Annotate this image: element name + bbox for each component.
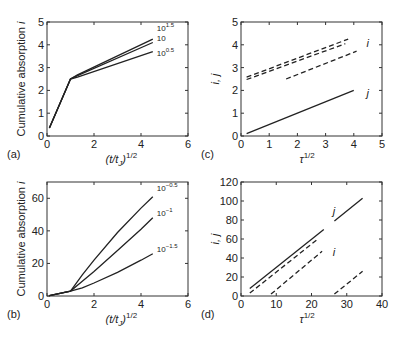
x-tick-label: 0 xyxy=(44,298,50,310)
series-line xyxy=(49,43,152,129)
x-tick-label: 30 xyxy=(341,298,353,310)
y-tick-label: 3 xyxy=(232,62,238,74)
x-tick-label: 20 xyxy=(305,298,317,310)
y-tick-label: 2 xyxy=(232,84,238,96)
series-line xyxy=(49,39,152,128)
series-line xyxy=(49,197,152,296)
x-tick-label: 0 xyxy=(44,138,50,150)
y-tick-label: 60 xyxy=(32,192,44,204)
panel-c: 012345012345(c)τ1/2i, jij xyxy=(201,16,385,165)
y-axis-label: i, j xyxy=(209,73,221,85)
x-tick-label: 10 xyxy=(270,298,282,310)
y-tick-label: 0 xyxy=(38,130,44,142)
figure: 0246012345(a)(t/tJ)1/2Cumulative absorpt… xyxy=(0,0,405,339)
y-axis-label: i, j xyxy=(209,233,221,245)
series-line xyxy=(334,271,362,294)
y-tick-label: 120 xyxy=(220,176,238,188)
x-tick-label: 3 xyxy=(323,138,329,150)
label-j: j xyxy=(364,87,369,99)
panel-tag: (c) xyxy=(201,148,214,160)
x-tick-label: 5 xyxy=(379,138,385,150)
label-i: i xyxy=(366,37,369,49)
x-axis-label: τ1/2 xyxy=(300,311,316,325)
x-tick-label: 0 xyxy=(238,298,244,310)
y-tick-label: 5 xyxy=(232,16,238,28)
y-tick-label: 0 xyxy=(232,130,238,142)
curve-label: 10−1 xyxy=(157,207,173,218)
y-tick-label: 40 xyxy=(32,225,44,237)
label-i: i xyxy=(333,246,336,258)
y-tick-label: 4 xyxy=(232,39,238,51)
y-tick-label: 5 xyxy=(38,16,44,28)
curve-label: 101.5 xyxy=(157,22,175,33)
y-tick-label: 0 xyxy=(232,290,238,302)
y-tick-label: 3 xyxy=(38,62,44,74)
axes-frame xyxy=(47,182,188,296)
x-axis-label: (t/tJ)1/2 xyxy=(106,311,138,328)
x-tick-label: 0 xyxy=(238,138,244,150)
x-tick-label: 2 xyxy=(294,138,300,150)
y-tick-label: 80 xyxy=(226,214,238,226)
x-tick-label: 1 xyxy=(266,138,272,150)
axes-frame xyxy=(241,22,382,136)
series-line xyxy=(247,39,349,77)
series-line xyxy=(247,44,346,80)
label-j: j xyxy=(331,205,336,217)
y-tick-label: 60 xyxy=(226,233,238,245)
x-tick-label: 4 xyxy=(138,138,144,150)
x-tick-label: 6 xyxy=(185,138,191,150)
y-tick-label: 2 xyxy=(38,84,44,96)
x-tick-label: 4 xyxy=(351,138,357,150)
x-tick-label: 40 xyxy=(376,298,388,310)
series-line xyxy=(49,218,152,296)
x-tick-label: 6 xyxy=(185,298,191,310)
y-tick-label: 4 xyxy=(38,39,44,51)
x-tick-label: 2 xyxy=(91,298,97,310)
panel-tag: (a) xyxy=(7,148,20,160)
y-tick-label: 0 xyxy=(38,290,44,302)
x-tick-label: 2 xyxy=(91,138,97,150)
curve-label: 10−0.5 xyxy=(157,182,178,193)
panel-d: 010203040020406080100120(d)τ1/2i, jij xyxy=(201,176,388,325)
series-line xyxy=(271,251,322,294)
x-tick-label: 4 xyxy=(138,298,144,310)
series-line xyxy=(250,230,324,289)
series-line xyxy=(49,254,152,296)
curve-label: 10−1.5 xyxy=(157,243,178,254)
y-tick-label: 20 xyxy=(226,271,238,283)
y-tick-label: 1 xyxy=(38,107,44,119)
series-line xyxy=(286,51,357,79)
series-line xyxy=(250,240,317,293)
x-axis-label: τ1/2 xyxy=(300,151,316,165)
panel-tag: (b) xyxy=(7,308,20,320)
series-line xyxy=(247,90,354,133)
y-tick-label: 100 xyxy=(220,195,238,207)
y-tick-label: 1 xyxy=(232,107,238,119)
y-tick-label: 40 xyxy=(226,252,238,264)
series-line xyxy=(334,198,362,221)
panel-a: 0246012345(a)(t/tJ)1/2Cumulative absorpt… xyxy=(7,16,191,168)
curve-label: 10 xyxy=(157,34,166,43)
y-axis-label: Cumulative absorption i xyxy=(15,181,27,297)
panel-tag: (d) xyxy=(201,308,214,320)
y-tick-label: 20 xyxy=(32,257,44,269)
y-axis-label: Cumulative absorption i xyxy=(15,21,27,137)
curve-label: 100.5 xyxy=(157,47,175,58)
axes-frame xyxy=(47,22,188,136)
x-axis-label: (t/tJ)1/2 xyxy=(106,151,138,168)
panel-b: 02460204060(b)(t/tJ)1/2Cumulative absorp… xyxy=(7,181,191,328)
